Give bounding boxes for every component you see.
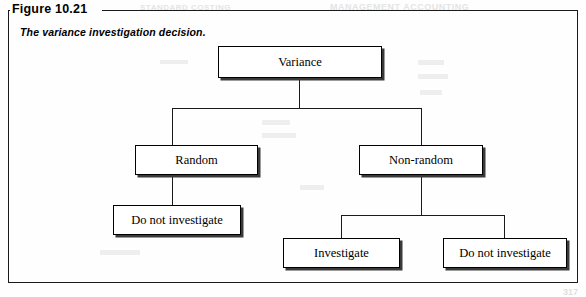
node-do-not-investigate-left[interactable]: Do not investigate bbox=[113, 205, 241, 235]
figure-page: MANAGEMENT ACCOUNTING STANDARD COSTING F… bbox=[0, 0, 586, 297]
connector-bus-to-nonrandom bbox=[421, 108, 422, 146]
connector-level1-bus bbox=[172, 108, 422, 109]
connector-random-to-dni bbox=[172, 175, 173, 206]
node-random-label: Random bbox=[175, 153, 217, 168]
node-do-not-investigate-right-label: Do not investigate bbox=[459, 246, 551, 261]
page-number: 317 bbox=[563, 287, 578, 297]
connector-nonrandom-down bbox=[421, 175, 422, 216]
connector-bus-to-dni-right bbox=[504, 215, 505, 239]
figure-caption: The variance investigation decision. bbox=[20, 26, 206, 38]
connector-variance-down bbox=[299, 78, 300, 109]
node-variance[interactable]: Variance bbox=[218, 46, 382, 78]
node-investigate[interactable]: Investigate bbox=[283, 238, 400, 268]
node-variance-label: Variance bbox=[278, 55, 322, 70]
node-investigate-label: Investigate bbox=[314, 246, 369, 261]
connector-bus-to-investigate bbox=[341, 215, 342, 239]
connector-bus-to-random bbox=[172, 108, 173, 146]
node-do-not-investigate-left-label: Do not investigate bbox=[131, 213, 223, 228]
node-non-random[interactable]: Non-random bbox=[359, 145, 483, 175]
node-random[interactable]: Random bbox=[135, 145, 258, 175]
connector-level2-bus bbox=[341, 215, 505, 216]
node-do-not-investigate-right[interactable]: Do not investigate bbox=[443, 238, 567, 268]
node-non-random-label: Non-random bbox=[389, 153, 453, 168]
figure-label: Figure 10.21 bbox=[12, 2, 87, 16]
